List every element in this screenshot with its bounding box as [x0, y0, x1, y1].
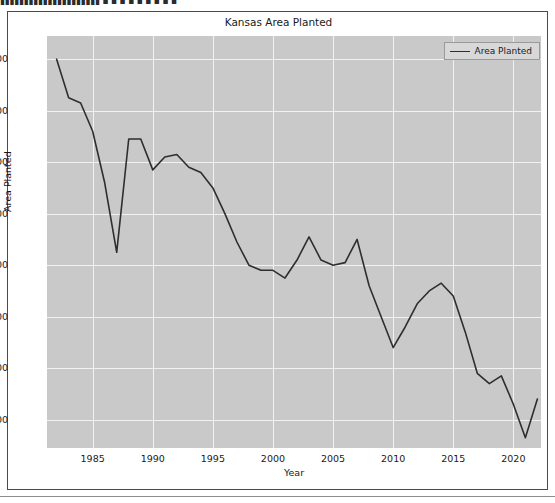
legend-label-area-planted: Area Planted — [475, 46, 533, 56]
chart-title: Kansas Area Planted — [8, 16, 549, 28]
y-tick-label: 10000 — [0, 259, 8, 270]
y-tick-label: 13000 — [0, 105, 8, 116]
y-tick-label: 8000 — [0, 362, 8, 373]
x-tick-label: 1990 — [123, 453, 183, 464]
data-series-canvas — [47, 36, 541, 448]
x-axis-ticks: 19851990199520002005201020152020 — [47, 453, 541, 467]
x-tick-label: 2010 — [363, 453, 423, 464]
x-tick-label: 1985 — [63, 453, 123, 464]
y-tick-label: 14000 — [0, 53, 8, 64]
x-axis-label: Year — [47, 467, 541, 478]
y-tick-label: 9000 — [0, 311, 8, 322]
y-axis-ticks: 7000800090001000011000120001300014000 — [0, 36, 8, 448]
x-tick-label: 2000 — [243, 453, 303, 464]
x-tick-label: 1995 — [183, 453, 243, 464]
legend-line-swatch — [450, 51, 470, 52]
screenshot-root: ▮▮▮▮▮▮▮▮▮▮▮▮▮▮▮▮▮▮▮▮▮ ▪ ▪ ▪ ▪ ▪ ▪ ▪ ▪ ▪ … — [0, 0, 555, 503]
x-tick-label: 2020 — [483, 453, 543, 464]
x-tick-label: 2005 — [303, 453, 363, 464]
line-series-area-planted — [57, 59, 538, 438]
y-axis-label: Area Planted — [2, 151, 13, 212]
bottom-divider — [0, 496, 555, 497]
y-tick-label: 7000 — [0, 414, 8, 425]
plot-area — [47, 36, 541, 448]
truncated-header-label: ▮▮▮▮▮▮▮▮▮▮▮▮▮▮▮▮▮▮▮▮▮ ▪ ▪ ▪ ▪ ▪ ▪ ▪ ▪ ▪ — [0, 0, 177, 6]
chart-figure: Kansas Area Planted 70008000900010000110… — [7, 11, 548, 490]
x-tick-label: 2015 — [423, 453, 483, 464]
truncated-header-text: ▮▮▮▮▮▮▮▮▮▮▮▮▮▮▮▮▮▮▮▮▮ ▪ ▪ ▪ ▪ ▪ ▪ ▪ ▪ ▪ — [0, 0, 555, 8]
chart-legend: Area Planted — [444, 42, 541, 60]
